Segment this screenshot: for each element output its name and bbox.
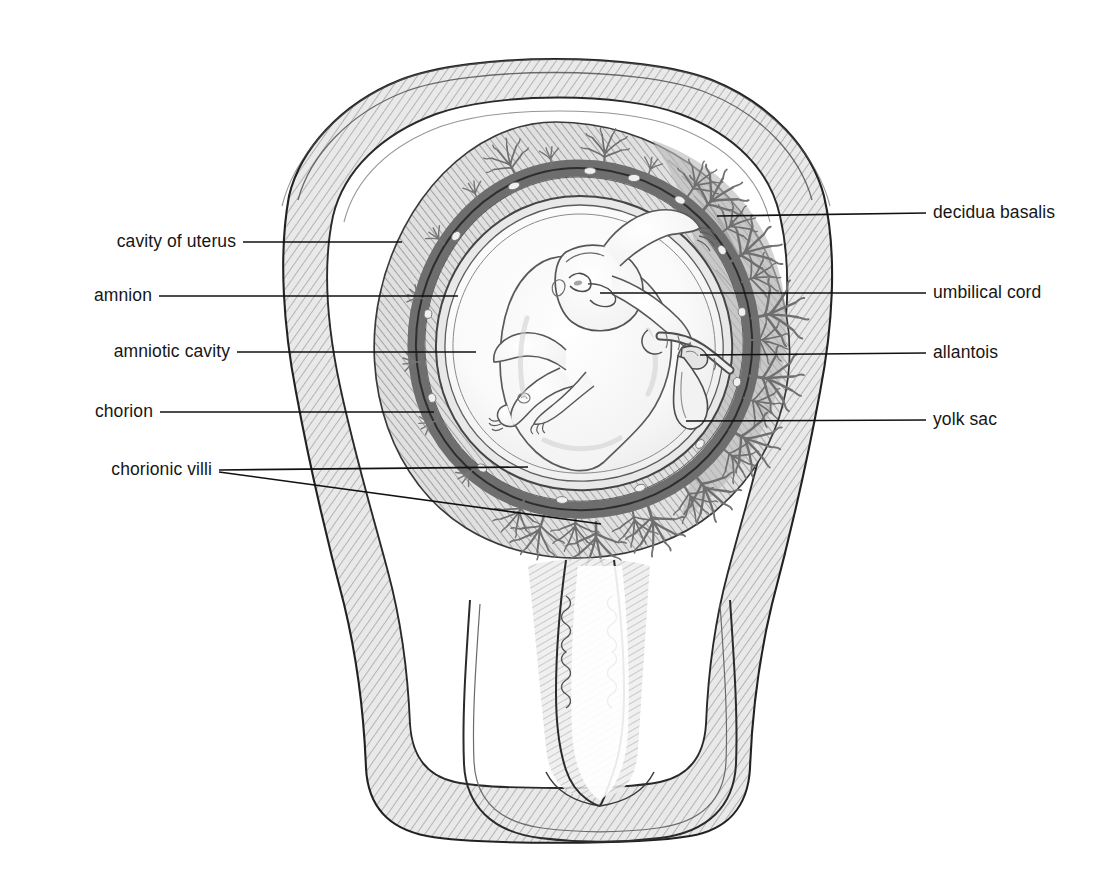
label-decidua-basalis[interactable]: decidua basalis (933, 204, 1055, 222)
label-umbilical-cord[interactable]: umbilical cord (933, 284, 1041, 302)
label-allantois[interactable]: allantois (933, 344, 998, 362)
label-chorion[interactable]: chorion (95, 403, 153, 421)
label-amniotic-cavity[interactable]: amniotic cavity (114, 343, 230, 361)
uterus-fetus-diagram (0, 0, 1115, 877)
leader-line-yolk-sac (686, 420, 926, 421)
label-yolk-sac[interactable]: yolk sac (933, 411, 997, 429)
figure-root: cavity of uterus amnion amniotic cavity … (0, 0, 1115, 877)
label-chorionic-villi[interactable]: chorionic villi (111, 461, 212, 479)
label-amnion[interactable]: amnion (94, 287, 152, 305)
label-cavity-of-uterus[interactable]: cavity of uterus (117, 233, 236, 251)
